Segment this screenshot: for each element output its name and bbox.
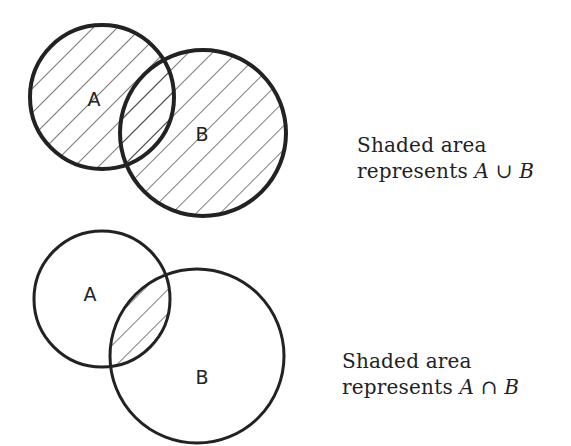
caption-line-1: Shaded area <box>342 348 519 374</box>
label-a: A <box>84 283 97 305</box>
caption-line-1: Shaded area <box>357 132 534 158</box>
caption-line-2: represents A ∩ B <box>342 374 519 400</box>
intersection-caption: Shaded area represents A ∩ B <box>342 348 519 400</box>
math-expression: A ∩ B <box>459 375 519 399</box>
union-venn: A B <box>30 25 286 216</box>
math-expression: A ∪ B <box>474 159 534 183</box>
label-b: B <box>195 366 208 388</box>
caption-line-2: represents A ∪ B <box>357 158 534 184</box>
label-b: B <box>195 123 208 145</box>
label-a: A <box>88 88 101 110</box>
union-caption: Shaded area represents A ∪ B <box>357 132 534 184</box>
intersection-venn: A B <box>34 231 284 443</box>
